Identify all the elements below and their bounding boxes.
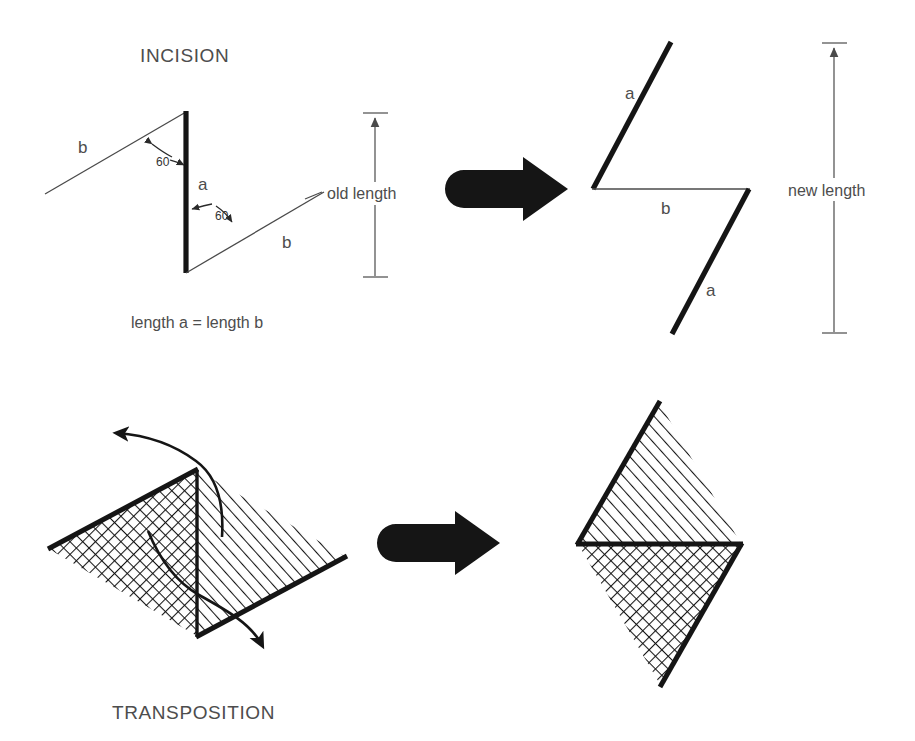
section-title-incision: INCISION xyxy=(140,45,229,66)
old-length-label: old length xyxy=(327,185,396,202)
incision-label-upper-b: b xyxy=(78,138,87,157)
opened-label-central-b: b xyxy=(661,199,670,218)
angle-label-lower: 60 xyxy=(215,209,229,223)
section-title-transposition: TRANSPOSITION xyxy=(112,702,275,723)
incision-label-central-a: a xyxy=(198,175,208,194)
opened-label-upper-a: a xyxy=(625,84,635,103)
canvas-background xyxy=(0,0,915,741)
opened-label-lower-a: a xyxy=(706,281,716,300)
new-length-label: new length xyxy=(788,182,865,199)
zplasty-diagram-canvas: INCISION b a b 60 60 length a = length b xyxy=(0,0,915,741)
angle-label-upper: 60 xyxy=(156,155,170,169)
incision-label-lower-b: b xyxy=(282,233,291,252)
incision-caption: length a = length b xyxy=(131,314,263,331)
figure-root: INCISION b a b 60 60 length a = length b xyxy=(0,0,915,741)
